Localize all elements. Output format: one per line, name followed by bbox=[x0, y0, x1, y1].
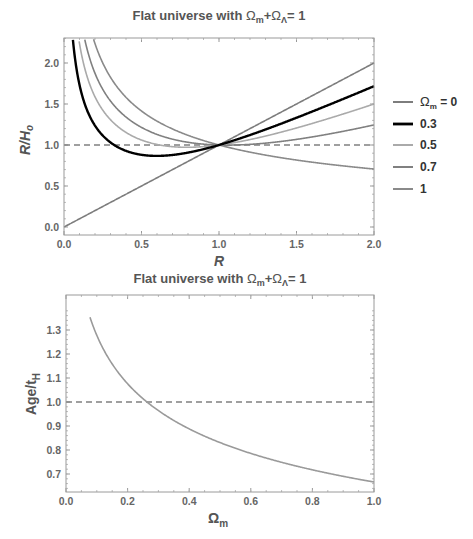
y-tick-label: 0.9 bbox=[46, 420, 61, 432]
x-tick-label: 1.0 bbox=[367, 495, 382, 507]
figure: Flat universe with Ωm+ΩΛ= 1 0.00.51.01.5… bbox=[0, 0, 473, 539]
x-tick-label: 2.0 bbox=[367, 238, 382, 250]
legend-item: 0.7 bbox=[393, 160, 437, 174]
age-curve bbox=[90, 317, 374, 482]
series-line-omega-0-7 bbox=[85, 40, 374, 145]
top-plot: Flat universe with Ωm+ΩΛ= 1 0.00.51.01.5… bbox=[17, 8, 458, 269]
y-tick-label: 1.0 bbox=[44, 139, 59, 151]
top-plot-title: Flat universe with Ωm+ΩΛ= 1 bbox=[133, 8, 306, 25]
top-x-axis-label: R bbox=[214, 253, 225, 269]
legend-item: Ωm = 0 bbox=[393, 94, 458, 111]
legend-label: Ωm = 0 bbox=[420, 94, 458, 111]
top-plot-lines bbox=[64, 39, 374, 227]
y-tick-label: 0.0 bbox=[44, 221, 59, 233]
legend-item: 0.5 bbox=[393, 138, 437, 152]
y-tick-label: 1.3 bbox=[46, 324, 61, 336]
bottom-plot-title: Flat universe with Ωm+ΩΛ= 1 bbox=[134, 271, 307, 288]
legend-label: 0.3 bbox=[420, 117, 437, 131]
y-tick-label: 1.5 bbox=[44, 98, 59, 110]
bottom-plot-ticks: 0.00.20.40.60.81.00.70.80.91.01.11.21.3 bbox=[46, 295, 381, 507]
x-tick-label: 0.5 bbox=[134, 238, 149, 250]
x-tick-label: 0.6 bbox=[243, 495, 258, 507]
legend-item: 0.3 bbox=[393, 117, 437, 131]
top-plot-frame bbox=[64, 38, 374, 235]
legend-item: 1 bbox=[393, 182, 427, 196]
legend-label: 0.7 bbox=[420, 160, 437, 174]
y-tick-label: 1.2 bbox=[46, 348, 61, 360]
y-tick-label: 2.0 bbox=[44, 57, 59, 69]
y-tick-label: 1.1 bbox=[46, 372, 61, 384]
bottom-x-axis-label: Ωm bbox=[208, 510, 228, 529]
legend-label: 1 bbox=[420, 182, 427, 196]
x-tick-label: 0.4 bbox=[182, 495, 197, 507]
x-tick-label: 0.0 bbox=[57, 238, 72, 250]
y-tick-label: 1.0 bbox=[46, 396, 61, 408]
x-tick-label: 1.5 bbox=[289, 238, 304, 250]
bottom-plot-lines bbox=[66, 317, 374, 482]
x-tick-label: 0.8 bbox=[305, 495, 320, 507]
x-tick-label: 0.0 bbox=[59, 495, 74, 507]
x-tick-label: 1.0 bbox=[212, 238, 227, 250]
legend-label: 0.5 bbox=[420, 138, 437, 152]
bottom-plot-frame bbox=[66, 295, 374, 492]
y-tick-label: 0.8 bbox=[46, 444, 61, 456]
x-tick-label: 0.2 bbox=[120, 495, 135, 507]
y-tick-label: 0.7 bbox=[46, 468, 61, 480]
dot-accent bbox=[24, 150, 26, 152]
top-y-axis-label: R/Ho bbox=[17, 125, 35, 155]
bottom-plot: Flat universe with Ωm+ΩΛ= 1 0.00.20.40.6… bbox=[23, 271, 381, 529]
bottom-y-axis-label: Age/tH bbox=[23, 373, 42, 415]
legend: Ωm = 00.30.50.71 bbox=[393, 94, 458, 196]
series-line-omega-0-3 bbox=[73, 40, 374, 156]
y-tick-label: 0.5 bbox=[44, 180, 59, 192]
